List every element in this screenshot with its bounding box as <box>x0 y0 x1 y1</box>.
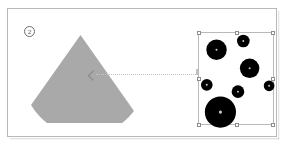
circle-6-center <box>237 91 239 93</box>
circle-4-center <box>206 84 208 86</box>
frame-shadow-bottom <box>10 138 279 140</box>
slide-canvas: 2 <box>0 0 286 150</box>
frame-shadow-right <box>278 11 280 139</box>
slide-frame: 2 <box>7 8 277 137</box>
circle-group[interactable] <box>199 33 273 124</box>
handle-bottom-center[interactable] <box>235 123 239 127</box>
handle-middle-right[interactable] <box>271 77 275 81</box>
handle-top-center[interactable] <box>235 31 239 35</box>
handle-bottom-left[interactable] <box>197 123 201 127</box>
circle-1-center <box>216 49 218 51</box>
cone-shape-path <box>31 35 134 123</box>
connector-line <box>96 74 198 76</box>
chevron-left-icon <box>87 70 95 81</box>
handle-bottom-right[interactable] <box>271 123 275 127</box>
selection-bounding-box[interactable] <box>198 32 274 125</box>
cone-shape[interactable] <box>29 35 134 123</box>
circle-3-center <box>249 67 251 69</box>
circle-7-center <box>219 111 222 114</box>
handle-top-right[interactable] <box>271 31 275 35</box>
handle-middle-left[interactable] <box>197 77 201 81</box>
circle-5-center <box>268 85 270 87</box>
handle-top-left[interactable] <box>197 31 201 35</box>
circle-markers <box>201 35 275 128</box>
circle-2-center <box>242 40 244 42</box>
